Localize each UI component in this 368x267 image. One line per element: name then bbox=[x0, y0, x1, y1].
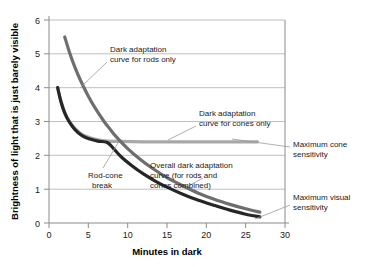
x-ticks bbox=[49, 223, 285, 228]
annotation-max-cone-sensitivity: Maximum cone sensitivity bbox=[293, 140, 348, 159]
annotation-overall-line2: curve (for rods and bbox=[150, 171, 217, 180]
y-tick-label-1: 1 bbox=[35, 185, 40, 195]
y-tick-label-3: 3 bbox=[35, 117, 40, 127]
x-tick-label-0: 0 bbox=[46, 230, 51, 240]
y-tick-label-5: 5 bbox=[35, 49, 40, 59]
annotation-overall-line3: cones combined) bbox=[150, 181, 211, 190]
annotation-max-visual-sensitivity: Maximum visual sensitivity bbox=[293, 193, 351, 212]
y-tick-label-0: 0 bbox=[35, 219, 40, 229]
y-ticks bbox=[44, 20, 49, 223]
y-tick-label-4: 4 bbox=[35, 83, 40, 93]
x-tick-label-15: 15 bbox=[162, 230, 172, 240]
x-axis-title: Minutes in dark bbox=[132, 246, 202, 257]
y-tick-label-2: 2 bbox=[35, 151, 40, 161]
annotation-max-visual-line1: Maximum visual bbox=[293, 193, 351, 202]
x-tick-label-5: 5 bbox=[86, 230, 91, 240]
y-tick-label-6: 6 bbox=[35, 16, 40, 26]
annotation-max-cone-line2: sensitivity bbox=[293, 150, 328, 159]
x-tick-label-30: 30 bbox=[280, 230, 290, 240]
annotation-rods-only: Dark adaptation curve for rods only bbox=[110, 45, 176, 64]
annotation-max-cone-line1: Maximum cone bbox=[293, 140, 348, 149]
x-tick-label-10: 10 bbox=[123, 230, 133, 240]
x-tick-label-20: 20 bbox=[201, 230, 211, 240]
annotation-rod-cone-break-line2: break bbox=[92, 181, 113, 190]
annotation-cones-only-line1: Dark adaptation bbox=[199, 109, 255, 118]
x-tick-label-25: 25 bbox=[241, 230, 251, 240]
annotation-rods-only-line2: curve for rods only bbox=[110, 55, 176, 64]
chart-svg: 0 5 10 15 20 25 30 0 1 2 3 4 5 6 Minutes… bbox=[0, 0, 368, 267]
y-axis-title: Brightness of light that is just barely … bbox=[9, 23, 20, 220]
annotation-rod-cone-break-line1: Rod-cone bbox=[88, 171, 123, 180]
annotation-cones-only-line2: curve for cones only bbox=[199, 119, 271, 128]
annotation-rods-only-line1: Dark adaptation bbox=[110, 45, 166, 54]
x-tick-labels: 0 5 10 15 20 25 30 bbox=[46, 230, 290, 240]
y-tick-labels: 0 1 2 3 4 5 6 bbox=[35, 16, 40, 229]
dark-adaptation-chart: 0 5 10 15 20 25 30 0 1 2 3 4 5 6 Minutes… bbox=[0, 0, 368, 267]
annotation-max-visual-line2: sensitivity bbox=[293, 203, 328, 212]
annotation-overall-line1: Overall dark adaptation bbox=[150, 161, 233, 170]
